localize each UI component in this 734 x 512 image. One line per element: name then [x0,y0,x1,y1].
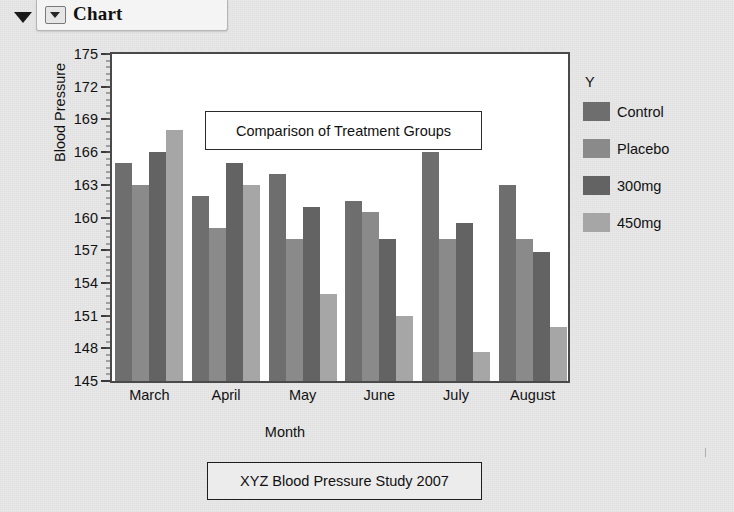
bar-june-450mg [396,316,413,381]
bar-april-placebo [209,228,226,381]
bar-may-placebo [286,239,303,381]
legend-swatch [583,176,610,195]
chart-title-box: Comparison of Treatment Groups [205,111,482,150]
x-axis-title: Month [0,424,570,440]
y-axis-title: Blood Pressure [52,63,68,162]
x-tick-label-july: July [443,387,469,403]
footer-note: XYZ Blood Pressure Study 2007 [240,473,449,489]
footer-note-box: XYZ Blood Pressure Study 2007 [207,462,482,500]
bar-july-placebo [439,239,456,381]
bar-june-placebo [362,212,379,381]
bar-april-300mg [226,163,243,381]
bar-april-control [192,196,209,381]
bar-august-300mg [533,252,550,381]
y-tick-label: 163 [74,177,98,193]
bar-july-300mg [456,223,473,381]
x-tick-label-august: August [510,387,555,403]
y-tick-label: 148 [74,340,98,356]
bar-august-450mg [550,327,567,382]
bar-march-control [115,163,132,381]
bar-may-450mg [320,294,337,381]
bar-june-300mg [379,239,396,381]
y-tick-label: 157 [74,242,98,258]
legend-title: Y [583,74,723,90]
window-header: Chart [0,0,734,32]
legend-label: Control [617,104,664,120]
x-tick-label-march: March [129,387,169,403]
legend-swatch [583,213,610,232]
bar-august-control [499,185,516,381]
bar-august-placebo [516,239,533,381]
y-tick-label: 160 [74,210,98,226]
y-tick-label: 151 [74,308,98,324]
legend-swatch [583,102,610,121]
bar-june-control [345,201,362,381]
x-tick-label-june: June [364,387,395,403]
legend-items: ControlPlacebo300mg450mg [583,101,723,233]
legend-item-450mg[interactable]: 450mg [583,212,723,233]
y-tick-label: 154 [74,275,98,291]
y-tick-label: 175 [74,46,98,62]
bar-may-300mg [303,207,320,381]
x-tick-label-april: April [211,387,240,403]
y-axis: Blood Pressure 1451481511541571601631661… [58,52,112,383]
legend-item-control[interactable]: Control [583,101,723,122]
bar-may-control [269,174,286,381]
chart-area: Blood Pressure 1451481511541571601631661… [0,32,734,512]
legend-label: 300mg [617,178,661,194]
bar-july-control [422,152,439,381]
y-tick-label: 172 [74,79,98,95]
bar-march-placebo [132,185,149,381]
y-tick-label: 145 [74,373,98,389]
scan-artifact [705,448,706,457]
legend-swatch [583,139,610,158]
page-title: Chart [73,3,123,25]
bar-march-300mg [149,152,166,381]
legend-label: Placebo [617,141,669,157]
chart-header-tab[interactable]: Chart [36,0,228,31]
chart-dropdown-icon[interactable] [45,6,66,24]
x-tick-label-may: May [289,387,316,403]
chart-title: Comparison of Treatment Groups [236,123,451,139]
chart-window: Chart Blood Pressure 1451481511541571601… [0,0,734,512]
legend: Y ControlPlacebo300mg450mg [583,74,723,249]
bar-april-450mg [243,185,260,381]
legend-label: 450mg [617,215,661,231]
y-tick-label: 166 [74,144,98,160]
y-tick-label: 169 [74,111,98,127]
bar-july-450mg [473,352,490,381]
legend-item-300mg[interactable]: 300mg [583,175,723,196]
legend-item-placebo[interactable]: Placebo [583,138,723,159]
triangle-down-icon[interactable] [14,12,32,23]
bar-march-450mg [166,130,183,381]
